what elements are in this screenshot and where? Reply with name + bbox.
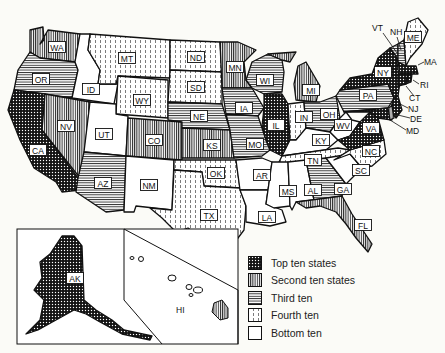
label-MI: MI [306,86,315,96]
label-NM: NM [142,181,155,191]
legend-item-second: Second ten states [248,272,355,290]
label-MD: MD [406,126,419,136]
label-WA: WA [50,43,64,53]
label-OR: OR [35,75,48,85]
label-AL: AL [308,186,319,196]
legend-item-third: Third ten [248,289,355,307]
label-WY: WY [135,96,149,106]
label-AK: AK [69,274,81,284]
label-IA: IA [240,104,248,114]
state-WI[interactable] [246,54,284,94]
label-VT: VT [372,23,383,33]
label-GA: GA [337,185,350,195]
legend-label: Bottom ten [271,327,322,339]
legend-label: Fourth ten [271,309,319,321]
label-AZ: AZ [98,179,109,189]
label-NE: NE [193,112,205,122]
dense-vertical-swatch-icon [248,273,262,287]
label-MA: MA [424,57,437,67]
label-NC: NC [365,147,377,157]
label-PA: PA [363,91,374,101]
label-FL: FL [358,221,368,231]
label-CT: CT [409,93,420,103]
label-TX: TX [204,211,215,221]
legend-item-fourth: Fourth ten [248,307,355,325]
label-NV: NV [60,122,72,132]
label-ND: ND [190,53,202,63]
label-DE: DE [410,114,422,124]
legend-label: Third ten [271,292,312,304]
label-ID: ID [87,85,96,95]
label-OH: OH [323,110,336,120]
label-MT: MT [121,54,133,64]
legend-item-top: Top ten states [248,254,355,272]
label-LA: LA [262,213,273,223]
crosshatch-swatch-icon [248,256,262,270]
label-IL: IL [272,121,279,131]
label-RI: RI [420,80,429,90]
label-KY: KY [315,136,327,146]
label-WV: WV [336,121,350,131]
label-WI: WI [260,76,270,86]
label-MO: MO [248,140,262,150]
label-HI: HI [176,305,185,315]
label-TN: TN [307,156,318,166]
label-NY: NY [377,68,389,78]
legend-label: Top ten states [271,257,336,269]
label-SD: SD [190,83,202,93]
label-UT: UT [98,130,109,140]
label-CO: CO [148,136,161,146]
label-MS: MS [282,187,295,197]
legend-item-bottom: Bottom ten [248,324,355,342]
label-ME: ME [407,33,420,43]
label-VA: VA [366,124,377,134]
us-map: WAORCAIDNVMTNDSDWYUTCONEKSAZNMOKTXMNWIIA… [0,0,445,353]
label-SC: SC [355,166,367,176]
dashed-vertical-swatch-icon [248,308,262,322]
state-MA[interactable] [398,62,418,74]
label-MN: MN [228,63,241,73]
label-IN: IN [300,113,309,123]
label-AR: AR [256,171,268,181]
label-NJ: NJ [408,104,418,114]
legend-label: Second ten states [271,274,355,286]
label-OK: OK [210,169,223,179]
label-CA: CA [32,146,44,156]
label-KS: KS [206,141,218,151]
legend: Top ten states Second ten states Third t… [248,254,355,342]
label-NH: NH [390,27,402,37]
horizontal-swatch-icon [248,291,262,305]
blank-swatch-icon [248,326,262,340]
